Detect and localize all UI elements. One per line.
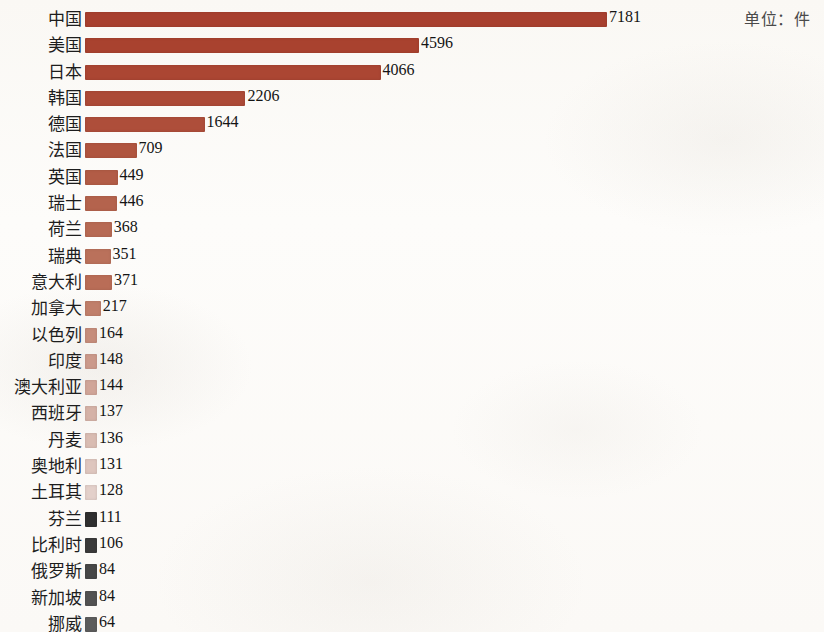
bar-value-label: 84 <box>99 585 115 606</box>
category-label: 意大利 <box>0 271 82 294</box>
bar-row: 印度148 <box>0 350 824 376</box>
category-label: 比利时 <box>0 534 82 557</box>
bar-track <box>85 196 117 211</box>
bar-track <box>85 617 97 632</box>
bar <box>85 328 97 343</box>
bar-value-label: 1644 <box>207 111 239 132</box>
bar <box>85 538 97 553</box>
bar-value-label: 111 <box>99 506 122 527</box>
bar-value-label: 446 <box>119 190 143 211</box>
bar-row: 澳大利亚144 <box>0 376 824 402</box>
bar-value-label: 84 <box>99 558 115 579</box>
bar-value-label: 7181 <box>609 6 641 27</box>
bar-value-label: 4596 <box>421 32 453 53</box>
bar-row: 瑞典351 <box>0 245 824 271</box>
bar-value-label: 131 <box>99 453 123 474</box>
bar-track <box>85 380 97 395</box>
bar-row: 荷兰368 <box>0 218 824 244</box>
bar <box>85 38 419 53</box>
bar <box>85 459 97 474</box>
bar-row: 比利时106 <box>0 534 824 560</box>
bar-row: 以色列164 <box>0 324 824 350</box>
category-label: 中国 <box>0 8 82 31</box>
bar-value-label: 106 <box>99 532 123 553</box>
bar-row: 中国7181 <box>0 8 824 34</box>
bar-row: 加拿大217 <box>0 297 824 323</box>
category-label: 土耳其 <box>0 481 82 504</box>
bar-value-label: 128 <box>99 479 123 500</box>
category-label: 印度 <box>0 350 82 373</box>
bar-value-label: 217 <box>103 295 127 316</box>
bar-value-label: 709 <box>139 137 163 158</box>
bar-row: 挪威64 <box>0 613 824 632</box>
category-label: 日本 <box>0 61 82 84</box>
bar-track <box>85 275 112 290</box>
bar-track <box>85 143 137 158</box>
category-label: 新加坡 <box>0 587 82 610</box>
bar-row: 德国1644 <box>0 113 824 139</box>
category-label: 以色列 <box>0 324 82 347</box>
bar-track <box>85 512 97 527</box>
bar-row: 丹麦136 <box>0 429 824 455</box>
bar-row: 瑞士446 <box>0 192 824 218</box>
bar-row: 芬兰111 <box>0 508 824 534</box>
bar-value-label: 148 <box>99 348 123 369</box>
bar-track <box>85 485 97 500</box>
bar-rows-container: 中国7181美国4596日本4066韩国2206德国1644法国709英国449… <box>0 8 824 632</box>
bar-value-label: 449 <box>120 164 144 185</box>
bar <box>85 406 97 421</box>
bar-value-label: 4066 <box>383 59 415 80</box>
bar-row: 土耳其128 <box>0 481 824 507</box>
bar-track <box>85 354 97 369</box>
bar-row: 新加坡84 <box>0 587 824 613</box>
bar-row: 西班牙137 <box>0 402 824 428</box>
category-label: 丹麦 <box>0 429 82 452</box>
bar-track <box>85 301 101 316</box>
bar-row: 意大利371 <box>0 271 824 297</box>
category-label: 瑞士 <box>0 192 82 215</box>
bar-row: 韩国2206 <box>0 87 824 113</box>
bar <box>85 591 97 606</box>
bar <box>85 380 97 395</box>
bar-track <box>85 222 112 237</box>
category-label: 挪威 <box>0 613 82 632</box>
bar <box>85 222 112 237</box>
bar-track <box>85 12 607 27</box>
bar-track <box>85 65 381 80</box>
bar-track <box>85 433 97 448</box>
category-label: 芬兰 <box>0 508 82 531</box>
category-label: 英国 <box>0 166 82 189</box>
category-label: 俄罗斯 <box>0 560 82 583</box>
bar-value-label: 164 <box>99 322 123 343</box>
category-label: 法国 <box>0 139 82 162</box>
category-label: 美国 <box>0 34 82 57</box>
bar <box>85 485 97 500</box>
bar <box>85 12 607 27</box>
bar-track <box>85 591 97 606</box>
bar <box>85 170 118 185</box>
bar-row: 俄罗斯84 <box>0 560 824 586</box>
bar-row: 奥地利131 <box>0 455 824 481</box>
category-label: 瑞典 <box>0 245 82 268</box>
bar <box>85 433 97 448</box>
category-label: 澳大利亚 <box>0 376 82 399</box>
bar-row: 日本4066 <box>0 61 824 87</box>
bar-track <box>85 170 118 185</box>
bar <box>85 617 97 632</box>
bar-value-label: 2206 <box>247 85 279 106</box>
bar <box>85 65 381 80</box>
bar <box>85 143 137 158</box>
bar <box>85 564 97 579</box>
category-label: 加拿大 <box>0 297 82 320</box>
category-label: 荷兰 <box>0 218 82 241</box>
category-label: 德国 <box>0 113 82 136</box>
bar-track <box>85 459 97 474</box>
bar <box>85 354 97 369</box>
bar-row: 英国449 <box>0 166 824 192</box>
bar <box>85 196 117 211</box>
bar-value-label: 136 <box>99 427 123 448</box>
bar-track <box>85 117 205 132</box>
bar-track <box>85 91 245 106</box>
category-label: 西班牙 <box>0 402 82 425</box>
bar-track <box>85 538 97 553</box>
